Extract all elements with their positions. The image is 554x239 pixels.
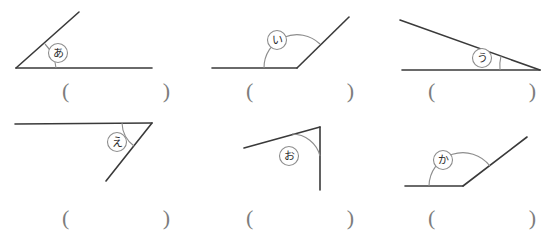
answer-blank-ka[interactable]: ( ): [428, 205, 536, 231]
worksheet: あ ( ) い ( ) う ( ): [0, 0, 554, 239]
label-text-ka: か: [438, 154, 449, 167]
angle-diagram-o: お: [185, 112, 375, 202]
label-text-o: お: [284, 150, 295, 163]
angle-diagram-e: え: [0, 112, 185, 202]
ray-diagonal-e: [106, 123, 152, 181]
paren-open-o: (: [246, 207, 253, 229]
ray-diagonal-ka: [463, 137, 527, 186]
ray-horizontal-e: [15, 123, 152, 124]
answer-blank-i[interactable]: ( ): [246, 78, 354, 104]
label-text-u: う: [477, 52, 488, 65]
label-text-e: え: [112, 136, 123, 149]
angle-figure-u: う: [375, 0, 554, 80]
ray-diagonal-a: [16, 12, 79, 68]
angle-figure-e: え: [0, 112, 185, 202]
paren-close-u: ): [529, 80, 536, 102]
angle-diagram-i: い: [185, 0, 375, 80]
label-text-i: い: [272, 34, 283, 47]
paren-close-i: ): [347, 80, 354, 102]
paren-open-ka: (: [428, 207, 435, 229]
paren-open-e: (: [62, 207, 69, 229]
answer-blank-a[interactable]: ( ): [62, 78, 170, 104]
paren-open-i: (: [246, 80, 253, 102]
angle-figure-ka: か: [375, 112, 554, 202]
ray-diagonal-i: [297, 17, 349, 68]
angle-diagram-ka: か: [375, 112, 554, 202]
paren-open-a: (: [62, 80, 69, 102]
paren-close-ka: ): [529, 207, 536, 229]
angle-arc-u: [500, 56, 501, 70]
answer-blank-u[interactable]: ( ): [428, 78, 536, 104]
paren-close-a: ): [163, 80, 170, 102]
paren-close-o: ): [347, 207, 354, 229]
angle-figure-i: い: [185, 0, 375, 80]
answer-blank-e[interactable]: ( ): [62, 205, 170, 231]
label-text-a: あ: [53, 47, 64, 60]
paren-close-e: ): [163, 207, 170, 229]
answer-blank-o[interactable]: ( ): [246, 205, 354, 231]
ray-diagonal-o: [244, 127, 320, 148]
paren-open-u: (: [428, 80, 435, 102]
angle-diagram-a: あ: [0, 0, 185, 80]
angle-figure-a: あ: [0, 0, 185, 80]
ray-diagonal-u: [400, 20, 540, 70]
angle-figure-o: お: [185, 112, 375, 202]
angle-diagram-u: う: [375, 0, 554, 80]
